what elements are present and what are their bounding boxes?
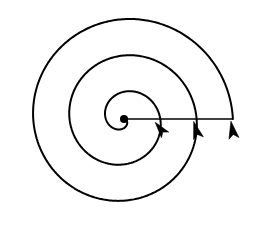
spiral-diagram — [0, 0, 253, 247]
center-dot — [120, 115, 128, 123]
spiral-figure-root — [0, 0, 253, 247]
